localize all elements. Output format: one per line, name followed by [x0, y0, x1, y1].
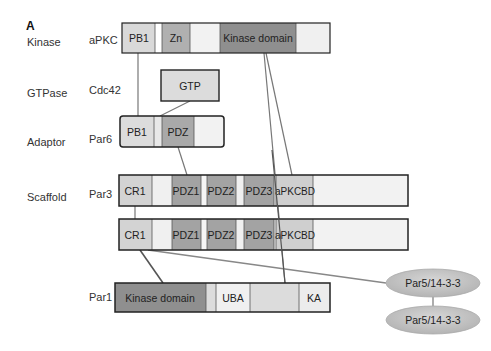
par5-bottom-label: Par5/14-3-3 — [405, 314, 461, 326]
connector-gtp-par6 — [160, 101, 190, 116]
par5-ellipse-top: Par5/14-3-3 — [386, 269, 480, 297]
par5-ellipse-bottom: Par5/14-3-3 — [386, 306, 480, 334]
panel-label: A — [26, 19, 35, 33]
protein-par6-label: Par6 — [89, 133, 112, 145]
par3-bottom-domain-cr1: CR1 — [124, 229, 145, 241]
category-scaffold: Scaffold — [27, 191, 67, 203]
apkc-domain-pb1: PB1 — [129, 32, 149, 44]
apkc-bar: PB1 Zn Kinase domain — [122, 23, 330, 53]
protein-par1-label: Par1 — [89, 291, 112, 303]
apkc-domain-kinase: Kinase domain — [223, 32, 293, 44]
protein-apkc-label: aPKC — [89, 34, 118, 46]
par1-domain-kinase: Kinase domain — [125, 292, 195, 304]
category-adaptor: Adaptor — [27, 136, 66, 148]
par1-bar: Kinase domain UBA KA — [115, 283, 330, 312]
protein-par3-label: Par3 — [89, 188, 112, 200]
par3-top-domain-pdz3: PDZ3 — [246, 185, 273, 197]
par3-top-domain-pdz1: PDZ1 — [173, 185, 200, 197]
par6-domain-pdz: PDZ — [168, 126, 190, 138]
cdc42-domain-gtp: GTP — [179, 80, 201, 92]
par5-top-label: Par5/14-3-3 — [405, 277, 461, 289]
par3-bottom-domain-pdz2: PDZ2 — [208, 229, 235, 241]
par3-top-domain-apkcbd: aPKCBD — [275, 186, 315, 197]
par1-domain-uba: UBA — [222, 292, 244, 304]
par3-top-domain-pdz2: PDZ2 — [208, 185, 235, 197]
par3-bar-top: CR1 PDZ1 PDZ2 PDZ3 aPKCBD — [119, 175, 408, 206]
par3-top-domain-cr1: CR1 — [124, 185, 145, 197]
protein-cdc42-label: Cdc42 — [89, 84, 121, 96]
par6-bar: PB1 PDZ — [120, 116, 224, 147]
par1-domain-ka: KA — [307, 292, 321, 304]
apkc-domain-zn: Zn — [170, 32, 182, 44]
par-complex-diagram: A Kinase aPKC GTPase Cdc42 Adaptor Par6 … — [0, 0, 491, 351]
connector-apkc-kinase-par1-overlay — [272, 150, 285, 283]
par6-domain-pb1: PB1 — [127, 126, 147, 138]
cdc42-gtp-box: GTP — [161, 70, 219, 101]
par3-bottom-domain-pdz3: PDZ3 — [246, 229, 273, 241]
connector-par6-pdz-par3-pdz1 — [178, 147, 187, 175]
category-kinase: Kinase — [27, 36, 61, 48]
category-gtpase: GTPase — [27, 87, 67, 99]
connector-par3-par5 — [148, 250, 386, 283]
connector-par3-cr1-par1-kinase — [140, 250, 163, 283]
par3-bottom-domain-pdz1: PDZ1 — [173, 229, 200, 241]
par3-bar-bottom: CR1 PDZ1 PDZ2 PDZ3 aPKCBD — [119, 219, 408, 250]
